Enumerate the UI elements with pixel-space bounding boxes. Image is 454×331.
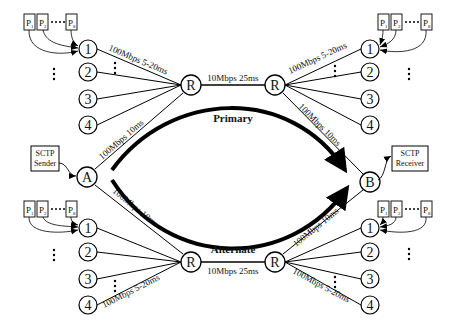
- alternate-label: Alternate: [211, 243, 256, 255]
- sctp-sender-box: SCTP Sender: [31, 146, 76, 176]
- svg-text:4: 4: [85, 118, 92, 133]
- cross-node-1: 1: [79, 219, 97, 237]
- svg-text:SCTP: SCTP: [400, 149, 420, 158]
- router-top-left: R: [181, 75, 201, 95]
- svg-text:1: 1: [367, 42, 374, 57]
- top-left-cross-nodes: 1 2 3 4: [79, 40, 97, 134]
- svg-text:3: 3: [85, 272, 92, 287]
- bottom-bottleneck-label: 10Mbps 25ms: [207, 266, 259, 276]
- svg-text:3: 3: [367, 92, 374, 107]
- svg-text:2: 2: [367, 245, 374, 260]
- svg-text:1: 1: [85, 42, 92, 57]
- top-left-access-label: 100Mbps 5-20ms: [107, 43, 170, 77]
- svg-text:1: 1: [367, 221, 374, 236]
- svg-text:2: 2: [367, 65, 374, 80]
- bottom-left-cross-nodes: 1 2 3 4: [79, 219, 97, 314]
- cross-node-4: 4: [361, 116, 379, 134]
- svg-text:A: A: [82, 170, 93, 185]
- bottom-right-cross-nodes: 1 2 3 4: [361, 219, 379, 314]
- top-right-access-label: 100Mbps 5-20ms: [287, 40, 349, 76]
- svg-text:4: 4: [85, 298, 92, 313]
- svg-text:R: R: [186, 78, 196, 93]
- svg-text:3: 3: [367, 272, 374, 287]
- topology-diagram: Primary Alternate R R R R 10Mbps 25ms 10…: [0, 0, 454, 331]
- router-top-right: R: [265, 75, 285, 95]
- packet-group-top-right: P1 P2 P8: [378, 14, 432, 52]
- svg-text:2: 2: [85, 65, 92, 80]
- svg-text:B: B: [365, 175, 374, 190]
- cross-node-4: 4: [79, 116, 97, 134]
- bottom-left-access-label: 100Mbps 5-20ms: [100, 272, 161, 310]
- svg-text:SCTP: SCTP: [35, 149, 55, 158]
- svg-text:Sender: Sender: [34, 159, 57, 168]
- cross-node-2: 2: [79, 243, 97, 261]
- svg-text:4: 4: [367, 298, 374, 313]
- cross-node-1: 1: [361, 40, 379, 58]
- bottom-right-access-label: 100Mbps 5-20ms: [291, 266, 352, 305]
- primary-label: Primary: [213, 112, 253, 124]
- svg-text:3: 3: [85, 92, 92, 107]
- packet-group-top-left: P1 P2 P8: [24, 14, 78, 53]
- cross-node-3: 3: [79, 270, 97, 288]
- cross-node-2: 2: [361, 63, 379, 81]
- cross-node-4: 4: [79, 296, 97, 314]
- router-bottom-right: R: [265, 252, 285, 272]
- ellipsis-dots: [53, 62, 410, 292]
- sctp-receiver-box: SCTP Receiver: [378, 146, 428, 180]
- packet-group-bottom-right: P1 P2 P8: [378, 201, 432, 232]
- svg-text:R: R: [186, 255, 196, 270]
- svg-text:R: R: [270, 78, 280, 93]
- svg-text:R: R: [270, 255, 280, 270]
- svg-text:Receiver: Receiver: [396, 159, 425, 168]
- cross-node-1: 1: [79, 40, 97, 58]
- top-right-cross-nodes: 1 2 3 4: [361, 40, 379, 134]
- bottom-right-edge-label: 100Mbps 10ms: [291, 205, 341, 248]
- cross-node-2: 2: [361, 243, 379, 261]
- cross-node-1: 1: [361, 219, 379, 237]
- endpoint-b: B: [360, 172, 380, 192]
- cross-node-3: 3: [361, 270, 379, 288]
- cross-node-2: 2: [79, 63, 97, 81]
- svg-text:2: 2: [85, 245, 92, 260]
- endpoint-a: A: [77, 167, 97, 187]
- bottom-left-edge-label: 100Mbps 10ms: [111, 186, 161, 229]
- svg-text:1: 1: [85, 221, 92, 236]
- router-bottom-left: R: [181, 252, 201, 272]
- cross-node-3: 3: [361, 90, 379, 108]
- cross-node-3: 3: [79, 90, 97, 108]
- top-bottleneck-label: 10Mbps 25ms: [207, 73, 259, 83]
- cross-node-4: 4: [361, 296, 379, 314]
- svg-text:4: 4: [367, 118, 374, 133]
- packet-group-bottom-left: P1 P2 P8: [24, 201, 78, 232]
